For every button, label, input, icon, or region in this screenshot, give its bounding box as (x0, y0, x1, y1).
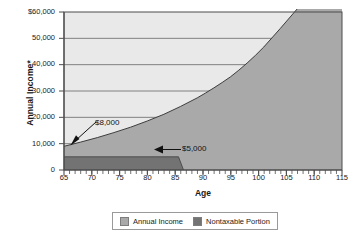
legend-swatch-icon (120, 217, 129, 226)
legend-label: Nontaxable Portion (206, 217, 270, 226)
x-axis-tick-labels: 65 70 75 80 85 90 95 100 105 110 115 (0, 173, 354, 187)
x-tick-label: 95 (219, 173, 243, 182)
annotation-label-8000: $8,000 (95, 118, 119, 127)
legend-item-annual-income: Annual Income (120, 217, 183, 226)
x-tick-label: 85 (163, 173, 187, 182)
legend-label: Annual Income (133, 217, 183, 226)
x-tick-label: 105 (274, 173, 298, 182)
area-chart: Annual Income* $60,000 50,000 40,000 30,… (0, 0, 354, 239)
legend-swatch-icon (193, 217, 202, 226)
x-tick-label: 100 (247, 173, 271, 182)
chart-legend: Annual Income Nontaxable Portion (112, 212, 278, 230)
x-tick-label: 70 (80, 173, 104, 182)
series-area-nontaxable-portion (64, 157, 184, 170)
x-tick-label: 110 (302, 173, 326, 182)
x-axis-title: Age (64, 188, 342, 198)
x-tick-label: 75 (108, 173, 132, 182)
annotation-label-5000: $5,000 (182, 144, 206, 153)
y-axis-ticks (59, 12, 64, 170)
x-tick-label: 115 (330, 173, 354, 182)
x-tick-label: 65 (52, 173, 76, 182)
x-tick-label: 90 (191, 173, 215, 182)
x-tick-label: 80 (135, 173, 159, 182)
plot-area (0, 0, 354, 200)
legend-item-nontaxable-portion: Nontaxable Portion (193, 217, 270, 226)
